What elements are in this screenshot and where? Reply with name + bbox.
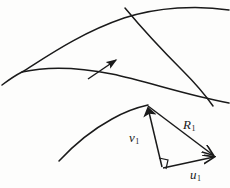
vector-u1-line [163,157,214,168]
label-v1-symbol: v [129,130,135,145]
label-v1-subscript: 1 [135,137,139,146]
label-v1: v1 [129,131,139,144]
label-R1-symbol: R [183,117,191,132]
label-u1: u1 [190,168,201,181]
free-vector-arrow [88,60,116,79]
label-u1-subscript: 1 [197,174,201,183]
outer-upper-arc-curve [2,7,229,85]
label-R1: R1 [183,118,195,131]
crossing-arc-curve [125,8,213,106]
vector-geometry-figure: R1 v1 u1 [0,0,230,188]
middle-arc-curve [22,68,229,103]
label-R1-subscript: 1 [191,124,195,133]
figure-canvas [0,0,230,188]
label-u1-symbol: u [190,167,197,182]
